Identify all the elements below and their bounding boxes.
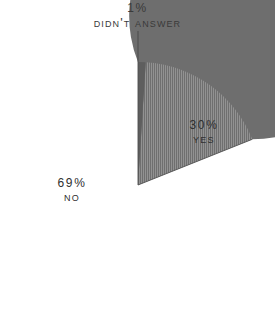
pie-label-yes: 30% Yes [158, 118, 250, 147]
pie-label-no-percent: 69% [26, 176, 118, 190]
pie-label-yes-category: Yes [158, 132, 250, 147]
callout-category: Didn't Answer [0, 15, 275, 30]
callout-percent: 1% [0, 1, 275, 15]
pie-label-no: 69% No [26, 176, 118, 205]
pie-chart-canvas [0, 0, 275, 320]
callout-didnt-answer: 1% Didn't Answer [0, 1, 275, 30]
pie-label-yes-percent: 30% [158, 118, 250, 132]
pie-chart-figure: 1% Didn't Answer 30% Yes 69% No [0, 0, 275, 320]
pie-label-no-category: No [26, 190, 118, 205]
